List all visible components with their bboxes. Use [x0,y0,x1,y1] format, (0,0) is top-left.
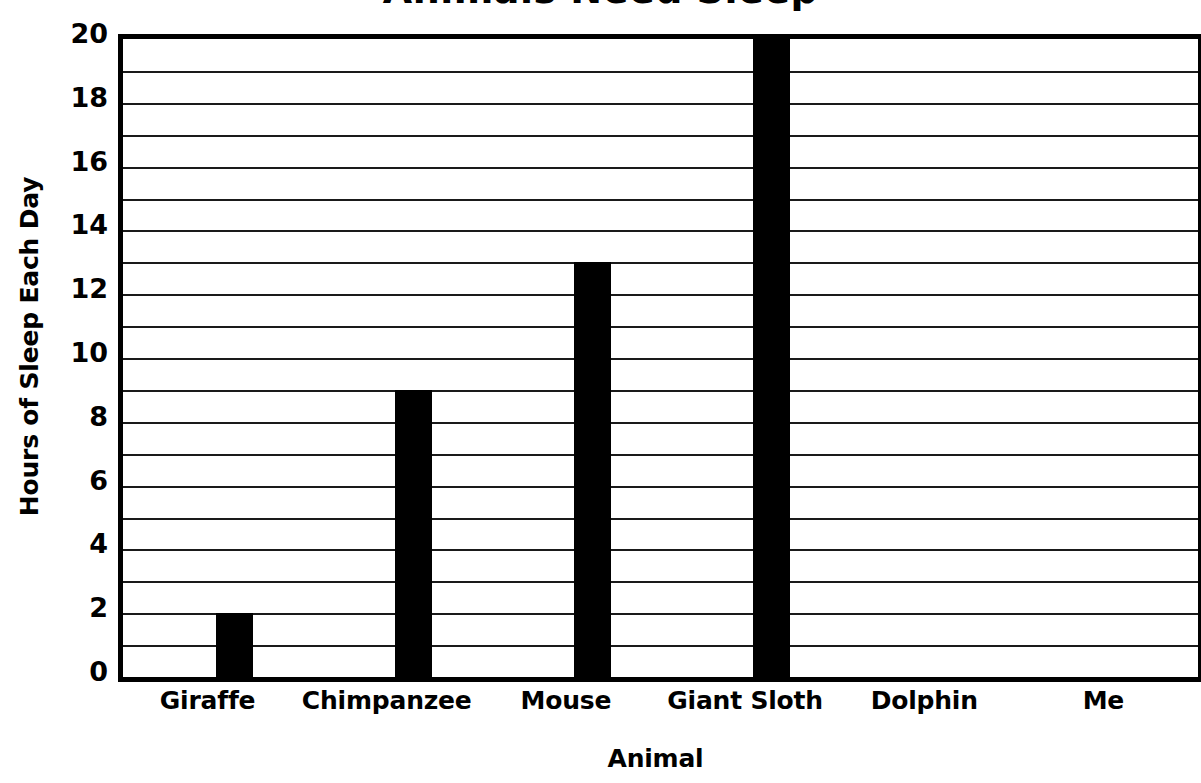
gridline [123,518,1198,520]
y-axis-tick-label: 8 [28,403,108,430]
x-axis-title: Animal [118,744,1193,773]
y-axis-tick-label: 14 [28,211,108,238]
gridline [123,358,1198,360]
gridline [123,199,1198,201]
gridline [123,486,1198,488]
plot-inner [123,39,1198,677]
gridline [123,103,1198,105]
y-axis-tick-label: 10 [28,339,108,366]
x-axis-category-label: Dolphin [835,686,1014,715]
gridline [123,390,1198,392]
bar [574,262,611,677]
gridline [123,230,1198,232]
gridline [123,613,1198,615]
bar-chart: Animals Need Sleep Hours of Sleep Each D… [0,0,1201,783]
y-axis-tick-label: 20 [28,20,108,47]
y-axis-tick-label: 2 [28,594,108,621]
gridline [123,167,1198,169]
gridline [123,262,1198,264]
gridline [123,454,1198,456]
gridline [123,326,1198,328]
gridline [123,135,1198,137]
gridline [123,549,1198,551]
x-axis-category-label: Chimpanzee [297,686,476,715]
plot-area [118,34,1201,682]
y-axis-tick-label: 18 [28,84,108,111]
x-axis-category-label: Giraffe [118,686,297,715]
y-axis-tick-label: 6 [28,467,108,494]
y-axis-tick-label: 4 [28,530,108,557]
y-axis-tick-label: 0 [28,658,108,685]
x-axis-category-label: Mouse [476,686,655,715]
x-axis-category-label: Giant Sloth [656,686,835,715]
gridline [123,71,1198,73]
y-axis-tick-label: 12 [28,275,108,302]
bar [395,390,432,677]
bar [216,613,253,677]
bar [753,39,790,677]
chart-title: Animals Need Sleep [0,0,1201,10]
gridline [123,581,1198,583]
gridline [123,645,1198,647]
gridline [123,422,1198,424]
gridline [123,294,1198,296]
y-axis-tick-label: 16 [28,148,108,175]
x-axis-category-label: Me [1014,686,1193,715]
